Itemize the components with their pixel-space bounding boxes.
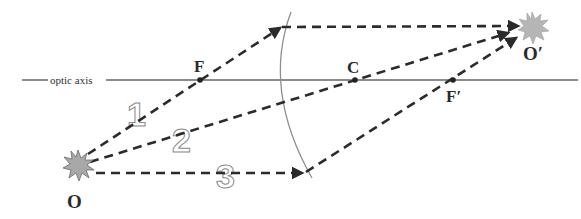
ray-1-reflected	[282, 26, 518, 27]
ray-number-2: 2	[172, 121, 191, 159]
optic-axis-label: optic axis	[50, 74, 92, 86]
image-star-icon	[518, 12, 549, 44]
center-label: C	[347, 58, 359, 77]
ray-diagram: optic axis 1 2 3 F C F′ O O′	[0, 0, 581, 219]
focal-point-label: F	[194, 57, 204, 76]
focal-point-prime-dot	[450, 77, 456, 83]
center-point-dot	[352, 77, 358, 83]
object-label: O	[67, 191, 82, 212]
focal-point-dot	[197, 77, 203, 83]
optic-axis: optic axis	[22, 74, 578, 86]
ray-3-reflected	[306, 38, 516, 172]
focal-point-prime-label: F′	[446, 87, 461, 106]
image-label: O′	[523, 43, 543, 64]
ray-number-3: 3	[216, 157, 235, 195]
